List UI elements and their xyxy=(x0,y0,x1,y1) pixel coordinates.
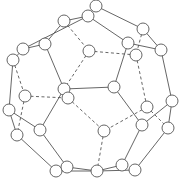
vertex-node-K xyxy=(130,49,142,61)
vertex-node-S xyxy=(136,119,148,131)
edge-W-X xyxy=(17,135,56,171)
nodes-group xyxy=(3,0,178,177)
vertex-node-H xyxy=(39,38,51,50)
vertex-node-T xyxy=(162,122,174,134)
vertex-node-AB xyxy=(129,164,141,176)
vertex-node-W xyxy=(11,129,23,141)
vertex-node-I xyxy=(7,54,19,66)
edge-I-R xyxy=(9,60,13,110)
polyhedron-diagram xyxy=(0,0,182,184)
hidden-edge-O-M xyxy=(25,96,68,98)
edge-N-S xyxy=(114,87,142,125)
vertex-node-R xyxy=(3,104,15,116)
vertex-node-AA xyxy=(116,159,128,171)
hidden-edge-J-L xyxy=(64,51,89,89)
vertex-node-X xyxy=(50,165,62,177)
vertex-node-Z xyxy=(91,165,103,177)
vertex-node-D xyxy=(137,23,149,35)
vertex-node-B xyxy=(82,10,94,22)
diagram-svg xyxy=(0,0,182,184)
edge-H-L xyxy=(45,44,64,89)
vertex-node-G xyxy=(17,43,29,55)
edge-A-D xyxy=(96,6,143,29)
edge-B-E xyxy=(88,16,128,43)
vertex-node-P xyxy=(166,95,178,107)
edge-E-N xyxy=(114,43,128,87)
edge-AB-T xyxy=(135,128,168,170)
vertex-node-M xyxy=(62,92,74,104)
edge-U-Y xyxy=(40,130,67,167)
hidden-edge-K-Q xyxy=(136,55,147,107)
edge-F-P xyxy=(161,50,172,101)
vertex-node-C xyxy=(58,15,70,27)
hidden-edge-M-V xyxy=(68,98,104,131)
vertex-node-V xyxy=(98,125,110,137)
vertex-node-J xyxy=(83,45,95,57)
edge-L-U xyxy=(40,89,64,130)
vertex-node-A xyxy=(90,0,102,12)
hidden-edge-J-K xyxy=(89,51,136,55)
vertex-node-E xyxy=(122,37,134,49)
edge-L-N xyxy=(64,87,114,89)
edge-AA-S xyxy=(122,125,142,165)
edge-B-G xyxy=(23,16,88,49)
vertex-node-Q xyxy=(141,101,153,113)
vertex-node-O xyxy=(19,90,31,102)
vertex-node-U xyxy=(34,124,46,136)
vertex-node-N xyxy=(108,81,120,93)
vertex-node-F xyxy=(155,44,167,56)
vertex-node-Y xyxy=(61,161,73,173)
